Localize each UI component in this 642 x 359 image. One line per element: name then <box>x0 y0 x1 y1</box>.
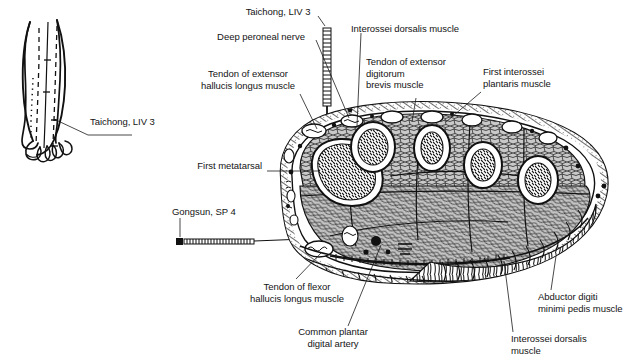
tendon-flexor-hallucis-longus <box>305 241 333 257</box>
label-interossei-dorsalis-top: Interossei dorsalis muscle <box>351 23 459 35</box>
fifth-metatarsal-bone <box>518 156 558 204</box>
third-metatarsal-bone <box>414 125 450 171</box>
foot-cross-section <box>281 102 608 287</box>
needle-taichong <box>323 28 331 128</box>
label-interossei-dorsalis-bottom: Interossei dorsalis muscle <box>511 333 587 356</box>
first-metatarsal-bone <box>312 139 383 206</box>
second-metatarsal-bone <box>351 122 395 172</box>
label-tendon-extensor-hallucis-longus: Tendon of extensor hallucis longus muscl… <box>187 68 309 91</box>
label-taichong-top: Taichong, LIV 3 <box>232 6 324 18</box>
label-inset-taichong: Taichong, LIV 3 <box>90 116 155 128</box>
label-deep-peroneal-nerve: Deep peroneal nerve <box>204 31 318 43</box>
label-tendon-flexor-hallucis-longus: Tendon of flexor hallucis longus muscle <box>228 281 366 304</box>
label-tendon-extensor-digitorum-brevis: Tendon of extensor digitorum brevis musc… <box>366 56 446 91</box>
dorsal-tendons <box>302 111 600 198</box>
label-abductor-digiti-minimi: Abductor digiti minimi pedis muscle <box>538 291 623 314</box>
label-first-metatarsal: First metatarsal <box>158 160 262 172</box>
common-plantar-digital-artery <box>342 226 412 255</box>
label-gongsun: Gongsun, SP 4 <box>172 206 236 218</box>
fourth-metatarsal-bone <box>464 142 502 188</box>
foot-outline-inset <box>22 20 132 162</box>
label-first-interossei-plantaris: First interossei plantaris muscle <box>483 66 551 89</box>
medial-structures <box>284 149 298 225</box>
label-common-plantar-digital-artery: Common plantar digital artery <box>278 326 388 349</box>
anatomy-figure: Taichong, LIV 3 Taichong, LIV 3 Deep per… <box>0 0 642 359</box>
needle-gongsun <box>176 218 330 245</box>
